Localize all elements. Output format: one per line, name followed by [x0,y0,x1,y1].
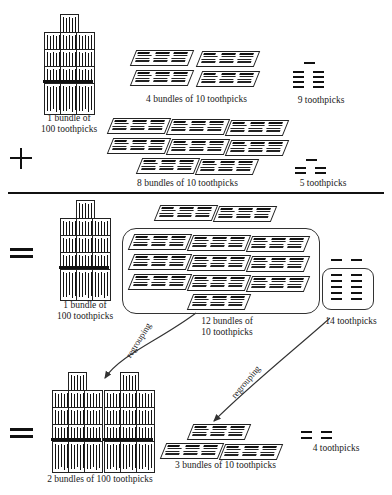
arrow-tens-to-hundred [105,313,196,378]
diagram-canvas: 1 bundle of 100 toothpicks 4 bundles of … [0,0,392,495]
arrow-ones-to-ten [214,318,330,421]
